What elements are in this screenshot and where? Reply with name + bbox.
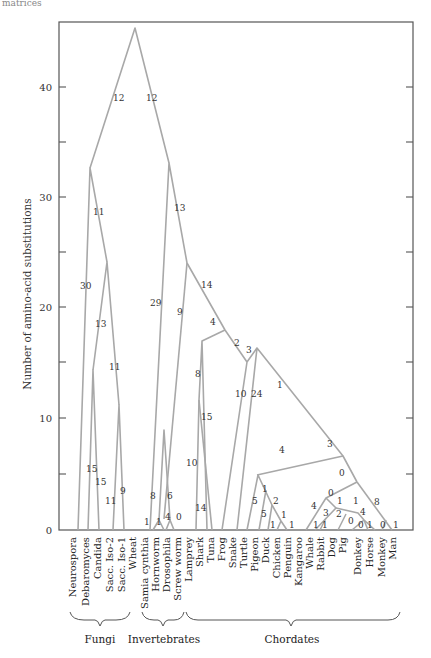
leaf-turtle: Turtle [238,537,249,568]
svg-text:10: 10 [186,458,198,468]
svg-text:2: 2 [273,496,279,506]
leaf-chicken: Chicken [271,536,282,578]
svg-text:1: 1 [322,520,328,530]
svg-text:30: 30 [80,281,92,291]
svg-text:1: 1 [270,520,276,530]
leaf-whale: Whale [304,537,315,569]
svg-text:8: 8 [150,491,156,501]
leaf-sacc-iso-1: Sacc. Iso-1 [116,537,127,592]
svg-text:1: 1 [367,520,373,530]
svg-text:0: 0 [328,488,334,498]
svg-text:2: 2 [234,338,240,348]
svg-text:0: 0 [348,516,354,526]
fungi-brace [70,612,130,626]
svg-text:0: 0 [380,520,386,530]
leaf-neurospora: Neurospora [67,537,78,597]
leaf-snake: Snake [227,537,238,568]
svg-text:0: 0 [339,468,345,478]
svg-text:3: 3 [246,345,252,355]
group-label-fungi: Fungi [85,633,117,645]
svg-text:12: 12 [146,93,157,103]
svg-text:11: 11 [105,496,116,506]
svg-text:11: 11 [93,207,104,217]
leaf-lamprey: Lamprey [183,537,194,582]
leaf-shark: Shark [194,536,205,567]
svg-text:0: 0 [358,520,364,530]
svg-text:8: 8 [374,497,380,507]
svg-text:5: 5 [261,509,267,519]
svg-text:13: 13 [174,203,186,213]
svg-text:1: 1 [289,520,295,530]
leaf-pigeon: Pigeon [249,536,260,571]
svg-text:3: 3 [327,439,333,449]
svg-text:2: 2 [336,509,342,519]
y-axis-ticks-right [406,87,413,474]
svg-text:10: 10 [235,389,247,399]
chordates-brace [186,612,400,626]
svg-text:4: 4 [165,512,171,522]
svg-text:14: 14 [195,503,207,513]
leaf-tuna: Tuna [205,537,216,563]
y-axis-ticks-left [59,87,66,474]
svg-text:4: 4 [279,445,285,455]
leaf-candida: Candida [92,537,103,579]
phylogenetic-tree-figure: matrices 40 30 20 10 0 Number of amino-a… [0,0,431,658]
svg-text:1: 1 [281,510,287,520]
svg-text:1: 1 [262,484,268,494]
svg-text:1: 1 [337,496,343,506]
svg-text:15: 15 [95,477,107,487]
svg-text:11: 11 [109,362,120,372]
leaf-pig: Pig [337,536,348,553]
leaf-screw-worm: Screw worm [172,536,183,600]
svg-text:15: 15 [201,412,213,422]
leaf-horse: Horse [364,537,375,568]
leaf-rabbit: Rabbit [315,537,326,571]
leaf-duck: Duck [260,536,271,563]
group-label-chordates: Chordates [265,633,320,645]
leaf-sacc-iso-2: Sacc. Iso-2 [104,537,115,592]
leaf-samia-cynthia: Samia cynthia [139,537,150,609]
y-axis-label: Number of amino-acid substitutions [21,198,33,389]
svg-text:14: 14 [201,280,213,290]
svg-text:12: 12 [113,93,124,103]
svg-text:4: 4 [360,507,366,517]
svg-text:4: 4 [210,317,216,327]
leaf-donkey: Donkey [352,537,363,575]
leaf-dog: Dog [326,536,337,557]
leaf-hornworm: Hornworm [150,536,161,591]
leaf-debaromyces: Debaromyces [80,537,91,606]
svg-text:3: 3 [323,508,329,518]
group-label-invertebrates: Invertebrates [128,633,200,645]
svg-text:1: 1 [393,520,399,530]
top-text-fragment: matrices [2,0,42,8]
svg-text:9: 9 [177,307,183,317]
svg-text:6: 6 [167,491,173,501]
leaf-penguin: Penguin [282,536,293,578]
leaf-kangaroo: Kangaroo [293,537,304,586]
svg-text:13: 13 [95,319,107,329]
y-tick-30: 30 [39,192,52,203]
leaf-monkey: Monkey [376,537,387,578]
svg-text:1: 1 [144,517,150,527]
svg-text:29: 29 [150,298,162,308]
leaf-labels: Neurospora Debaromyces Candida Sacc. Iso… [67,536,398,609]
leaf-drosophila: Drosophila [161,537,172,592]
svg-text:15: 15 [86,464,98,474]
branch-labels: 12 12 11 30 13 11 15 15 11 9 13 29 9 14 … [80,93,399,530]
svg-text:1: 1 [313,520,319,530]
leaf-frog: Frog [216,536,227,561]
svg-text:1: 1 [353,496,359,506]
tree-branches [78,28,392,530]
svg-text:1: 1 [156,517,162,527]
svg-text:4: 4 [311,501,317,511]
svg-text:8: 8 [195,369,201,379]
leaf-man: Man [387,536,398,559]
svg-text:24: 24 [251,389,263,399]
invertebrates-brace [142,612,184,626]
svg-text:0: 0 [176,512,182,522]
y-tick-10: 10 [39,413,52,424]
svg-text:5: 5 [252,496,258,506]
y-tick-20: 20 [39,302,52,313]
y-tick-0: 0 [46,525,52,536]
leaf-wheat: Wheat [127,537,138,570]
